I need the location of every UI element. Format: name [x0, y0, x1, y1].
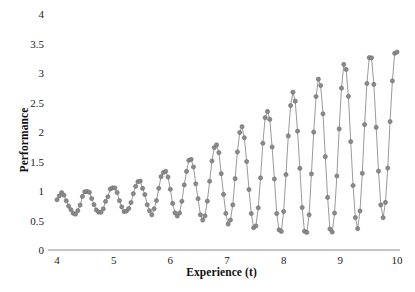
y-axis-title: Performance — [18, 85, 30, 195]
y-tick-label: 3 — [0, 68, 44, 79]
data-point — [240, 125, 244, 129]
data-point — [64, 199, 68, 203]
x-tick-label: 10 — [392, 255, 403, 266]
data-point — [289, 104, 293, 108]
data-point — [383, 200, 387, 204]
data-point — [323, 155, 327, 159]
data-point — [291, 90, 295, 94]
data-point — [166, 175, 170, 179]
data-point — [284, 172, 288, 176]
data-point — [92, 203, 96, 207]
data-point — [140, 186, 144, 190]
data-point — [390, 79, 394, 83]
data-point — [332, 211, 336, 215]
y-tick-label: 3.5 — [0, 38, 44, 49]
data-point — [210, 159, 214, 163]
series-line-performance — [57, 52, 397, 232]
data-point — [363, 122, 367, 126]
data-point — [127, 206, 131, 210]
data-point — [203, 214, 207, 218]
data-point — [307, 213, 311, 217]
data-point — [245, 159, 249, 163]
data-point — [258, 176, 262, 180]
data-point — [312, 130, 316, 134]
data-point — [55, 198, 59, 202]
data-point — [319, 83, 323, 87]
data-point — [379, 203, 383, 207]
data-point — [305, 230, 309, 234]
y-tick-label: 0.5 — [0, 215, 44, 226]
y-tick-label: 4 — [0, 9, 44, 20]
data-point — [263, 116, 267, 120]
data-point — [369, 56, 373, 60]
data-point — [261, 141, 265, 145]
data-point — [339, 86, 343, 90]
data-point — [344, 67, 348, 71]
data-point — [62, 193, 66, 197]
data-point — [184, 169, 188, 173]
data-point — [233, 177, 237, 181]
data-point — [143, 192, 147, 196]
data-point — [372, 82, 376, 86]
data-point — [129, 200, 133, 204]
data-point — [154, 199, 158, 203]
data-point — [80, 194, 84, 198]
data-point — [157, 186, 161, 190]
data-point — [101, 207, 105, 211]
data-point — [279, 229, 283, 233]
data-point — [147, 209, 151, 213]
x-tick-label: 5 — [111, 255, 117, 266]
data-point — [395, 50, 399, 54]
data-point — [113, 186, 117, 190]
data-point — [208, 179, 212, 183]
data-point — [356, 227, 360, 231]
data-point — [87, 190, 91, 194]
x-tick-label: 6 — [168, 255, 174, 266]
data-point — [247, 187, 251, 191]
data-point — [386, 166, 390, 170]
figure-container: 00.511.522.533.54 45678910 Performance E… — [0, 0, 415, 292]
data-point — [314, 94, 318, 98]
x-axis-title-text: Experience (t) — [186, 266, 257, 278]
data-point — [265, 109, 269, 113]
data-point — [78, 203, 82, 207]
data-point — [231, 203, 235, 207]
data-point — [360, 171, 364, 175]
data-point — [353, 216, 357, 220]
data-point — [196, 197, 200, 201]
data-point — [272, 177, 276, 181]
data-point — [298, 166, 302, 170]
data-point — [221, 192, 225, 196]
data-point — [376, 169, 380, 173]
data-point — [300, 205, 304, 209]
data-point — [286, 134, 290, 138]
figure-caption-strip — [6, 284, 336, 291]
data-point — [117, 199, 121, 203]
data-point — [90, 196, 94, 200]
data-point — [268, 117, 272, 121]
data-point — [316, 77, 320, 81]
data-point — [145, 203, 149, 207]
data-point — [293, 99, 297, 103]
data-point — [189, 157, 193, 161]
data-point — [249, 211, 253, 215]
data-point — [388, 119, 392, 123]
data-point — [159, 175, 163, 179]
data-point — [321, 112, 325, 116]
data-point — [337, 127, 341, 131]
data-point — [224, 211, 228, 215]
x-tick-label: 4 — [54, 255, 60, 266]
x-tick-label: 8 — [281, 255, 287, 266]
data-point — [358, 209, 362, 213]
data-point — [254, 224, 258, 228]
data-point — [76, 209, 80, 213]
chart-plot-area — [0, 0, 415, 292]
data-point — [270, 145, 274, 149]
data-point — [238, 130, 242, 134]
data-point — [349, 140, 353, 144]
data-point — [295, 129, 299, 133]
data-point — [342, 62, 346, 66]
data-point — [164, 169, 168, 173]
data-point — [177, 211, 181, 215]
data-point — [115, 190, 119, 194]
